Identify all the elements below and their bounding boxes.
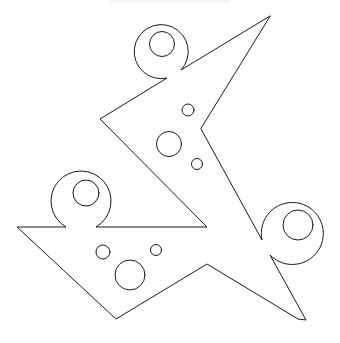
lower-hole-small-right bbox=[151, 245, 162, 256]
upper-hole-medium bbox=[157, 132, 182, 157]
left-loop-inner-ring bbox=[73, 180, 99, 206]
upper-hole-small-top bbox=[182, 104, 194, 116]
lower-hole-medium bbox=[115, 260, 145, 290]
shape-drawing bbox=[0, 0, 340, 343]
main-outline bbox=[17, 16, 323, 320]
lower-hole-small-left bbox=[96, 245, 110, 259]
right-loop-inner-ring bbox=[283, 210, 313, 240]
upper-hole-small-bottom bbox=[192, 159, 203, 170]
top-loop-inner-ring bbox=[150, 32, 175, 57]
